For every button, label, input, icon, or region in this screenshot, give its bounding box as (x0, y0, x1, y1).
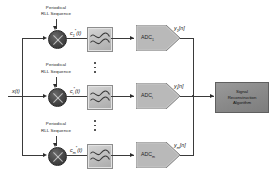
branch-1-source-line2: RLL Sequence (34, 12, 78, 17)
branch-i-y-arg: [n] (178, 83, 184, 89)
branch-m-feed-arrow (43, 153, 47, 157)
block-diagram-canvas: x(t) Periodical RLL Sequence c1*(t) ADC1… (0, 0, 271, 186)
branch-1-mixer (48, 30, 67, 49)
branch-1-mixer-to-filter-wire (65, 38, 87, 39)
branch-m-source-line1: Periodical (34, 122, 78, 127)
branch-1-y-arg: [n] (179, 25, 185, 31)
branch-i-output-label: yi[n] (174, 83, 184, 91)
branch-i-mixer (48, 88, 67, 107)
reconstruction-line3: Algorithm (233, 100, 251, 106)
lowpass-filter-icon (88, 86, 112, 109)
branch-i-mixer-to-filter-wire (65, 96, 87, 97)
branch-i-adc-sub: i (152, 96, 153, 100)
branch-i-c-arg: (t) (75, 88, 80, 94)
branch-i-adc-arrow (130, 94, 134, 98)
branch-m-output-label: ym[n] (174, 142, 186, 150)
branch-m-mixer-to-filter-wire (65, 155, 87, 156)
branch-1-c-arg: (t) (76, 30, 81, 36)
branch-m-lowpass-filter (87, 144, 113, 169)
branch-m-mixing-signal-label: cm*(t) (70, 146, 82, 155)
branch-1-mixing-signal-label: c1*(t) (70, 29, 81, 38)
branch-m-source-line2: RLL Sequence (34, 129, 78, 134)
branch-m-adc-arrow (130, 153, 134, 157)
lowpass-filter-icon (88, 28, 112, 51)
branch-1-adc-arrow (130, 36, 134, 40)
branch-1-adc-text: ADC (141, 34, 152, 40)
input-signal-label: x(t) (12, 88, 20, 94)
branch-m-y-arg: [n] (180, 142, 186, 148)
lowpass-filter-icon (88, 145, 112, 168)
reconstruction-input-arrow (210, 94, 214, 98)
branch-m-adc-text: ADC (141, 151, 152, 157)
branch-i-feed-arrow (43, 94, 47, 98)
branch-1-adc-sub: 1 (152, 38, 154, 42)
branch-m-adc-out-wire (180, 155, 194, 156)
branch-m-adc-label: ADCm (141, 151, 155, 159)
branch-m-adc-sub: m (152, 155, 155, 159)
branch-m-feed-wire (22, 155, 44, 156)
branch-i-source-line2: RLL Sequence (34, 70, 78, 75)
upper-vertical-ellipsis (94, 62, 96, 73)
branch-1-feed-wire (22, 38, 44, 39)
branch-1-lowpass-filter (87, 27, 113, 52)
branch-1-adc-out-wire (180, 38, 194, 39)
branch-i-adc-text: ADC (141, 92, 152, 98)
branch-m-c-arg: (t) (77, 147, 82, 153)
branch-i-lowpass-filter (87, 85, 113, 110)
branch-1-feed-arrow (43, 36, 47, 40)
branch-i-feed-wire (22, 96, 44, 97)
branch-1-adc-label: ADC1 (141, 34, 154, 42)
lower-vertical-ellipsis (94, 120, 96, 131)
branch-i-mixing-signal-label: ci*(t) (70, 87, 80, 96)
branch-i-adc-label: ADCi (141, 92, 153, 100)
branch-1-output-label: y1[n] (174, 25, 185, 33)
branch-i-source-line1: Periodical (34, 63, 78, 68)
branch-m-mixer (48, 147, 67, 166)
signal-reconstruction-algorithm-block: Signal Reconstruction Algorithm (215, 82, 269, 113)
